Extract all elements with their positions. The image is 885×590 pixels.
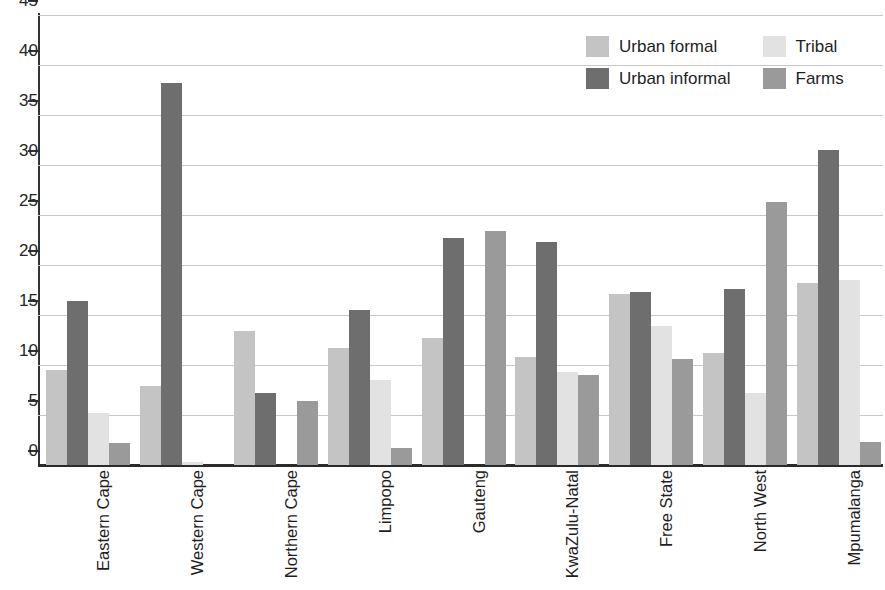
bar: [391, 448, 412, 465]
bar-slot: [515, 15, 536, 465]
x-axis-label: Eastern Cape: [95, 470, 112, 571]
bar: [818, 150, 839, 465]
legend-swatch: [763, 68, 786, 89]
legend-swatch: [586, 68, 609, 89]
y-axis-tick-label: 5: [12, 392, 38, 409]
bar-slot: [328, 15, 349, 465]
chart-legend: Urban formalTribalUrban informalFarms: [586, 36, 844, 89]
bar: [140, 386, 161, 465]
bar: [46, 370, 67, 465]
bar: [766, 202, 787, 465]
bar: [557, 372, 578, 465]
bar: [161, 83, 182, 465]
bar-slot: [860, 15, 881, 465]
y-axis-tick-label: 0: [12, 442, 38, 459]
x-axis-label: Western Cape: [189, 470, 206, 575]
bar: [797, 283, 818, 465]
bar: [182, 462, 203, 465]
y-axis-tick-label: 30: [12, 142, 38, 159]
bar: [297, 401, 318, 465]
bar: [724, 289, 745, 465]
x-axis-labels: Eastern CapeWestern CapeNorthern CapeLim…: [38, 470, 883, 590]
bar-slot: [443, 15, 464, 465]
bar: [255, 393, 276, 465]
y-axis-tick-label: 40: [12, 42, 38, 59]
bar: [536, 242, 557, 465]
y-axis-tick-label: 15: [12, 292, 38, 309]
bar: [672, 359, 693, 465]
legend-label: Tribal: [796, 37, 844, 57]
x-axis-label: Northern Cape: [283, 470, 300, 578]
bar-slot: [276, 15, 297, 465]
bar-chart: 051015202530354045 Eastern CapeWestern C…: [0, 0, 885, 590]
bar-slot: [557, 15, 578, 465]
bar-slot: [88, 15, 109, 465]
bar: [443, 238, 464, 465]
x-axis-label: Mpumalanga: [846, 470, 863, 565]
bar-slot: [46, 15, 67, 465]
bar: [578, 375, 599, 465]
bar-slot: [203, 15, 224, 465]
y-axis-tick-label: 25: [12, 192, 38, 209]
bar: [630, 292, 651, 465]
bar: [328, 348, 349, 465]
bar: [515, 357, 536, 465]
bar-slot: [536, 15, 557, 465]
bar-group: [422, 15, 506, 465]
bar-slot: [234, 15, 255, 465]
bar-slot: [370, 15, 391, 465]
bar-group: [140, 15, 224, 465]
bar: [485, 231, 506, 465]
y-axis-tick-label: 45: [12, 0, 38, 9]
bar-group: [234, 15, 318, 465]
bar: [109, 443, 130, 465]
y-axis-tick-label: 20: [12, 242, 38, 259]
bar: [67, 301, 88, 465]
bar: [422, 338, 443, 465]
bar-slot: [140, 15, 161, 465]
x-axis-label: Gauteng: [471, 470, 488, 533]
bar-slot: [67, 15, 88, 465]
bar-slot: [349, 15, 370, 465]
x-axis-label: KwaZulu-Natal: [564, 470, 581, 578]
bar: [839, 280, 860, 465]
bar: [860, 442, 881, 465]
legend-label: Urban informal: [619, 69, 753, 89]
bar: [234, 331, 255, 465]
bar-slot: [161, 15, 182, 465]
bar: [745, 393, 766, 465]
bar: [609, 294, 630, 465]
bar-slot: [464, 15, 485, 465]
bar-slot: [297, 15, 318, 465]
bar: [88, 413, 109, 465]
y-axis-tick-label: 10: [12, 342, 38, 359]
bar-slot: [255, 15, 276, 465]
x-axis-label: Free State: [658, 470, 675, 547]
bar-slot: [391, 15, 412, 465]
legend-label: Urban formal: [619, 37, 753, 57]
legend-swatch: [586, 36, 609, 57]
x-axis-label: North West: [752, 470, 769, 552]
bar: [349, 310, 370, 465]
bar-slot: [422, 15, 443, 465]
bar-slot: [182, 15, 203, 465]
y-axis-tick-label: 35: [12, 92, 38, 109]
bar: [651, 326, 672, 465]
legend-label: Farms: [796, 69, 844, 89]
bar: [370, 380, 391, 465]
y-axis: 051015202530354045: [0, 0, 38, 450]
bar-slot: [485, 15, 506, 465]
bar: [703, 353, 724, 465]
bar-slot: [109, 15, 130, 465]
bar-group: [46, 15, 130, 465]
legend-swatch: [763, 36, 786, 57]
bar-group: [328, 15, 412, 465]
x-axis-label: Limpopo: [377, 470, 394, 533]
